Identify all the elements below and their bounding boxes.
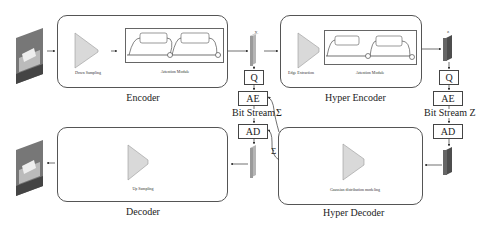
diagram-graphics [0,0,485,226]
